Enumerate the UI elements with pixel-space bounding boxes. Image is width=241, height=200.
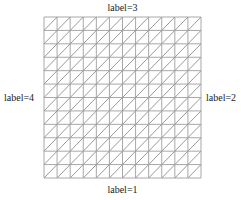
mesh-diagonal-line bbox=[44, 124, 57, 137]
mesh-diagonal-line bbox=[57, 151, 70, 164]
mesh-diagonal-line bbox=[175, 17, 188, 30]
mesh-diagonal-line bbox=[123, 111, 136, 124]
mesh-diagonal-line bbox=[44, 17, 57, 30]
mesh-diagonal-line bbox=[136, 17, 149, 30]
mesh-diagonal-line bbox=[162, 57, 175, 70]
mesh-diagonal-line bbox=[149, 124, 162, 137]
mesh-diagonal-line bbox=[188, 17, 201, 30]
mesh-diagonal-line bbox=[57, 44, 70, 57]
mesh-diagonal-line bbox=[83, 111, 96, 124]
mesh-diagonal-line bbox=[70, 111, 83, 124]
mesh-diagonal-line bbox=[70, 71, 83, 84]
mesh-diagonal-line bbox=[162, 138, 175, 151]
mesh-diagonal-line bbox=[44, 44, 57, 57]
mesh-diagonal-line bbox=[149, 84, 162, 97]
mesh-diagonal-line bbox=[136, 111, 149, 124]
mesh-diagonal-line bbox=[149, 44, 162, 57]
mesh-diagonal-line bbox=[70, 57, 83, 70]
mesh-diagram: label=3 label=1 label=4 label=2 bbox=[0, 0, 241, 200]
mesh-diagonal-line bbox=[96, 151, 109, 164]
mesh-diagonal-line bbox=[109, 44, 122, 57]
mesh-diagonal-line bbox=[123, 124, 136, 137]
mesh-diagonal-line bbox=[123, 71, 136, 84]
mesh-diagonal-line bbox=[162, 111, 175, 124]
mesh-diagonal-line bbox=[44, 71, 57, 84]
mesh-diagonal-line bbox=[57, 124, 70, 137]
mesh-diagonal-line bbox=[175, 138, 188, 151]
mesh-diagonal-line bbox=[109, 30, 122, 43]
mesh-diagonal-line bbox=[123, 30, 136, 43]
mesh-diagonal-line bbox=[109, 138, 122, 151]
mesh-diagonal-line bbox=[109, 98, 122, 111]
mesh-diagonal-line bbox=[162, 17, 175, 30]
mesh-diagonal-line bbox=[57, 71, 70, 84]
mesh-diagonal-line bbox=[70, 138, 83, 151]
mesh-diagonal-line bbox=[162, 84, 175, 97]
mesh-diagonal-line bbox=[188, 84, 201, 97]
mesh-diagonal-line bbox=[44, 57, 57, 70]
mesh-diagonal-line bbox=[162, 98, 175, 111]
mesh-diagonal-line bbox=[83, 84, 96, 97]
mesh-diagonal-line bbox=[109, 84, 122, 97]
mesh-diagonal-line bbox=[175, 44, 188, 57]
mesh-diagonal-line bbox=[44, 165, 57, 178]
mesh-diagonal-line bbox=[136, 151, 149, 164]
mesh-diagonal-line bbox=[175, 71, 188, 84]
mesh-diagonal-line bbox=[96, 71, 109, 84]
mesh-diagonal-line bbox=[83, 124, 96, 137]
mesh-diagonal-line bbox=[123, 17, 136, 30]
mesh-diagonal-line bbox=[123, 44, 136, 57]
mesh-diagonal-line bbox=[57, 111, 70, 124]
mesh-diagonal-line bbox=[70, 44, 83, 57]
mesh-diagonal-line bbox=[96, 44, 109, 57]
mesh-diagonal-line bbox=[136, 71, 149, 84]
mesh-diagonal-line bbox=[44, 151, 57, 164]
mesh-diagonal-line bbox=[83, 71, 96, 84]
mesh-diagonal-line bbox=[136, 30, 149, 43]
mesh-diagonal-line bbox=[136, 138, 149, 151]
mesh-diagonal-line bbox=[149, 138, 162, 151]
mesh-diagonal-line bbox=[149, 57, 162, 70]
mesh-diagonal-line bbox=[109, 151, 122, 164]
mesh-diagonal-line bbox=[109, 165, 122, 178]
mesh-diagonal-line bbox=[70, 98, 83, 111]
mesh-diagonal-line bbox=[83, 98, 96, 111]
mesh-diagonal-line bbox=[70, 17, 83, 30]
mesh-diagonal-line bbox=[70, 151, 83, 164]
mesh-diagonal-line bbox=[188, 44, 201, 57]
mesh-diagonal-line bbox=[188, 165, 201, 178]
mesh-diagonal-line bbox=[175, 151, 188, 164]
mesh-diagonal-line bbox=[123, 151, 136, 164]
mesh-diagonal-line bbox=[188, 138, 201, 151]
mesh-diagonal-line bbox=[109, 57, 122, 70]
mesh-diagonal-line bbox=[136, 98, 149, 111]
mesh-diagonal-line bbox=[109, 124, 122, 137]
mesh-diagonal-line bbox=[136, 44, 149, 57]
mesh-diagonal-line bbox=[175, 30, 188, 43]
mesh-diagonal-line bbox=[83, 44, 96, 57]
boundary-label-right: label=2 bbox=[206, 93, 236, 103]
mesh-diagonal-line bbox=[44, 30, 57, 43]
mesh-diagonal-line bbox=[188, 111, 201, 124]
mesh-diagonal-line bbox=[57, 98, 70, 111]
mesh-diagonal-line bbox=[149, 17, 162, 30]
mesh-diagonal-line bbox=[70, 30, 83, 43]
triangular-mesh bbox=[0, 0, 241, 200]
mesh-diagonal-line bbox=[188, 30, 201, 43]
mesh-diagonal-line bbox=[83, 17, 96, 30]
mesh-diagonal-line bbox=[57, 138, 70, 151]
mesh-diagonal-line bbox=[70, 165, 83, 178]
mesh-diagonal-line bbox=[149, 30, 162, 43]
mesh-diagonal-line bbox=[96, 17, 109, 30]
mesh-diagonal-line bbox=[175, 98, 188, 111]
mesh-diagonal-line bbox=[123, 57, 136, 70]
mesh-diagonal-line bbox=[136, 124, 149, 137]
mesh-diagonal-line bbox=[175, 111, 188, 124]
boundary-label-top: label=3 bbox=[0, 3, 241, 13]
mesh-diagonal-line bbox=[57, 57, 70, 70]
mesh-diagonal-line bbox=[109, 71, 122, 84]
mesh-diagonal-line bbox=[44, 138, 57, 151]
mesh-diagonal-line bbox=[57, 165, 70, 178]
mesh-diagonal-line bbox=[123, 98, 136, 111]
mesh-diagonal-line bbox=[188, 57, 201, 70]
